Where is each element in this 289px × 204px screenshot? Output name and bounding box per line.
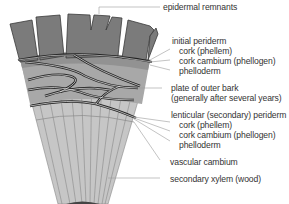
label-plate-outer-bark-note: (generally after several years)	[171, 93, 282, 103]
label-lenticular-periderm: lenticular (secondary) periderm	[171, 110, 286, 120]
label-initial-phelloderm: phelloderm	[179, 66, 221, 76]
label-plate-outer-bark: plate of outer bark	[171, 83, 238, 93]
label-lenticular-phelloderm: phelloderm	[179, 140, 221, 150]
label-initial-cork-cambium: cork cambium (phellogen)	[179, 56, 275, 66]
label-secondary-xylem: secondary xylem (wood)	[170, 174, 261, 184]
label-lenticular-cork: cork (phellem)	[179, 120, 232, 130]
label-lenticular-cork-cambium: cork cambium (phellogen)	[179, 130, 275, 140]
label-vascular-cambium: vascular cambium	[170, 157, 238, 167]
label-initial-periderm: initial periderm	[172, 36, 226, 46]
label-initial-cork: cork (phellem)	[179, 46, 232, 56]
label-epidermal-remnants: epidermal remnants	[163, 2, 237, 12]
